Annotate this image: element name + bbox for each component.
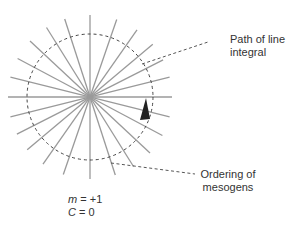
path-label-line1: Path of line [230,33,285,46]
ordering-label: Ordering of mesogens [196,168,260,194]
ordering-label-line2: mesogens [196,181,260,194]
m-value: = +1 [77,193,102,205]
c-symbol: C [68,206,76,218]
mesogen-director-lines [8,15,172,179]
path-label: Path of line integral [230,33,285,59]
ordering-leader-line [111,163,195,174]
c-value: = 0 [76,206,95,218]
path-label-line2: integral [230,46,285,59]
m-symbol: m [68,193,77,205]
direction-arrow-icon [140,98,150,120]
ordering-label-line1: Ordering of [196,168,260,181]
constant-equation: C = 0 [68,206,95,219]
winding-number-equation: m = +1 [68,193,102,206]
